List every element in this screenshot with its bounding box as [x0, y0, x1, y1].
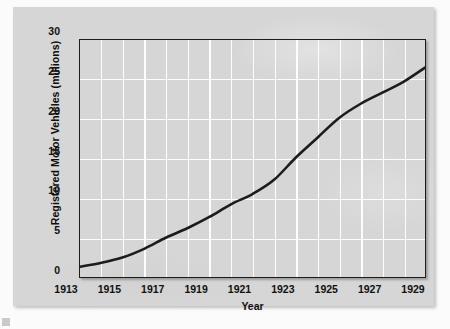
series-path	[80, 68, 425, 267]
y-axis-title: Registered Motor Vehicles (millions)	[49, 13, 61, 253]
x-axis-title: Year	[79, 300, 426, 312]
y-tick-label: 25	[16, 65, 60, 77]
chart-panel: Registered Motor Vehicles (millions) Yea…	[13, 7, 434, 306]
y-tick-label: 15	[16, 145, 60, 157]
x-tick-label: 1929	[383, 283, 443, 295]
y-tick-label: 0	[16, 264, 60, 276]
scan-corner-mark	[2, 318, 10, 326]
plot-area	[79, 39, 426, 278]
plot-inner	[80, 40, 425, 277]
y-tick-label: 5	[16, 224, 60, 236]
data-series-line	[80, 40, 425, 277]
y-tick-label: 20	[16, 105, 60, 117]
figure-root: Registered Motor Vehicles (millions) Yea…	[0, 0, 450, 329]
y-tick-label: 30	[16, 25, 60, 37]
y-tick-label: 10	[16, 184, 60, 196]
